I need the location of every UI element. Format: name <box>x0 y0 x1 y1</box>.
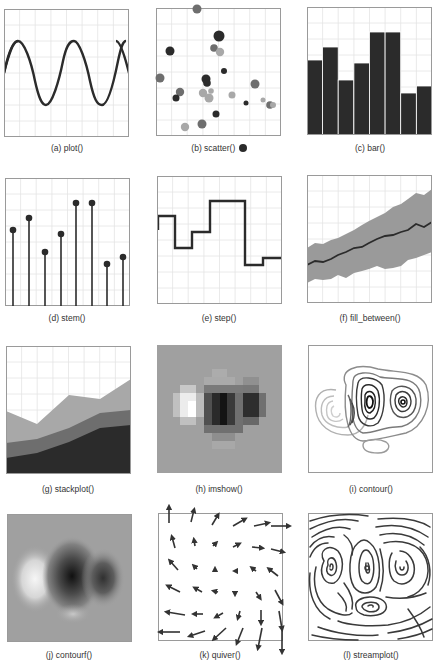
plot-step-chart <box>157 176 282 304</box>
caption-bar: (c) bar() <box>297 143 438 153</box>
plot-scatter-chart <box>156 8 281 136</box>
stem-chart-svg <box>5 178 130 306</box>
caption-fill-between: (f) fill_between() <box>297 313 438 323</box>
caption-stem: (d) stem() <box>0 313 140 323</box>
bars <box>308 32 432 135</box>
light-lobe-bottom <box>55 604 91 624</box>
grid-lines <box>5 178 130 306</box>
caption-stackplot: (g) stackplot() <box>0 484 141 494</box>
step-chart-svg <box>157 176 282 304</box>
caption-imshow: (h) imshow() <box>146 484 292 494</box>
plot-frame <box>309 514 433 641</box>
plot-contour-chart <box>308 345 433 473</box>
scatter-points <box>156 5 277 132</box>
plot-imshow-chart <box>157 345 282 473</box>
bar-chart-svg <box>307 7 432 135</box>
fill-between-chart-svg <box>307 175 432 303</box>
imshow-heatmap-svg <box>157 345 282 473</box>
line-chart-svg <box>4 9 129 137</box>
caption-contourf: (j) contourf() <box>0 650 142 660</box>
contourf-chart-svg <box>7 514 132 642</box>
plot-streamplot-chart <box>308 513 433 641</box>
marker-dot-icon <box>239 144 247 152</box>
grid-lines <box>156 8 281 136</box>
plot-fill-between-chart <box>307 175 432 303</box>
plot-frame <box>159 514 283 641</box>
caption-quiver: (k) quiver() <box>147 650 293 660</box>
plot-bar-chart <box>307 7 432 135</box>
streamplot-chart-svg <box>308 513 433 641</box>
caption-step: (e) step() <box>146 313 292 323</box>
caption-contour: (i) contour() <box>298 484 438 494</box>
plot-line-chart <box>4 9 129 137</box>
dark-peak-right <box>81 548 125 608</box>
caption-scatter-text: (b) scatter() <box>191 143 235 153</box>
stackplot-chart-svg <box>6 346 131 474</box>
step-line <box>158 201 282 265</box>
plot-stackplot-chart <box>6 346 131 474</box>
scatter-chart-svg <box>156 8 281 136</box>
plot-quiver-chart <box>158 513 283 641</box>
quiver-chart-svg <box>158 513 283 641</box>
grid-lines <box>4 9 129 137</box>
quiver-arrows <box>160 507 289 652</box>
caption-streamplot: (l) streamplot() <box>298 650 438 660</box>
plot-contourf-chart <box>7 514 132 642</box>
caption-scatter: (b) scatter() <box>146 143 292 153</box>
contour-chart-svg <box>308 345 433 473</box>
plot-stem-chart <box>5 178 130 306</box>
caption-plot: (a) plot() <box>0 143 140 153</box>
